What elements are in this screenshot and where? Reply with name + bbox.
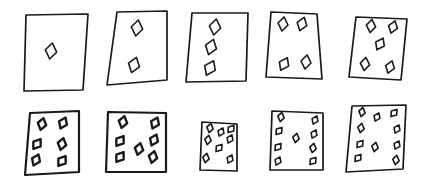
diamond-icon	[149, 116, 162, 131]
card-9-diamonds: 9 diamonds	[270, 111, 323, 170]
diamond-icon	[56, 154, 69, 169]
diamond-icon	[30, 153, 43, 168]
diamond-icon	[36, 117, 49, 132]
diamond-icon	[310, 115, 320, 126]
diamond-icon	[370, 142, 380, 153]
diamond-icon	[226, 124, 236, 135]
diamond-icon	[126, 56, 142, 75]
diamond-icon	[389, 108, 399, 119]
diamond-icon	[147, 150, 160, 165]
card-outline	[200, 122, 237, 171]
card-8-diamonds: 8 diamonds	[200, 122, 237, 171]
diamond-icon	[365, 18, 378, 33]
diamond-icon	[214, 143, 224, 154]
diamond-icon	[274, 126, 284, 137]
diamond-icon	[203, 135, 213, 146]
diamond-icon	[273, 142, 283, 153]
diamond-icon	[133, 142, 146, 157]
card-5-diamonds: 5 diamonds	[349, 17, 407, 80]
card-outline	[266, 12, 322, 79]
diamond-icon	[299, 54, 313, 70]
diamond-icon	[225, 154, 235, 165]
diamond-icon	[308, 143, 318, 154]
diamond-icon	[129, 19, 145, 38]
diamond-icon	[225, 134, 235, 145]
card-7-diamonds: 7 diamonds	[106, 112, 166, 172]
diamond-icon	[43, 42, 59, 61]
diamond-icon	[205, 123, 215, 134]
card-4-diamonds: 4 diamonds	[266, 12, 322, 79]
diamond-icon	[356, 123, 366, 134]
card-6-diamonds: 6 diamonds	[25, 111, 79, 175]
diamond-icon	[392, 124, 402, 135]
card-outline	[186, 13, 248, 82]
diamond-icon	[308, 156, 318, 167]
diamond-icon	[56, 137, 69, 152]
diamond-icon	[216, 127, 226, 138]
diamond-icon	[357, 107, 367, 118]
diamond-icon	[387, 19, 400, 34]
diamond-icon	[57, 116, 70, 131]
diamond-icon	[372, 112, 382, 123]
diamond-icon	[355, 139, 365, 150]
diamond-icon	[207, 18, 223, 37]
diamond-icon	[392, 140, 402, 151]
diamond-icon	[384, 59, 397, 74]
diamond-icon	[114, 134, 127, 149]
diamond-icon	[201, 153, 211, 164]
diamond-icon	[114, 150, 127, 165]
card-10-diamonds: 10 diamonds	[346, 105, 406, 172]
diamond-icon	[148, 133, 161, 148]
diamond-icon	[202, 59, 218, 78]
diamond-icon	[391, 155, 401, 166]
diamond-icon	[374, 36, 387, 51]
diamond-icon	[277, 56, 291, 72]
diamond-icon	[359, 56, 372, 71]
cards-canvas: Hand-drawn playing cards with 1 to 10 di…	[0, 0, 433, 192]
card-3-diamonds: 3 diamonds	[186, 13, 248, 82]
diamond-icon	[291, 133, 301, 144]
diamond-icon	[276, 112, 286, 123]
diamond-icon	[203, 38, 219, 57]
diamond-icon	[353, 153, 363, 164]
diamond-icon	[273, 156, 283, 167]
card-1-diamonds: 1 diamond	[24, 14, 88, 91]
diamond-icon	[309, 129, 319, 140]
diamond-icon	[295, 16, 309, 32]
diamond-icon	[276, 16, 290, 32]
diamond-icon	[117, 115, 130, 130]
card-2-diamonds: 2 diamonds	[107, 11, 167, 85]
diamond-icon	[31, 137, 44, 152]
